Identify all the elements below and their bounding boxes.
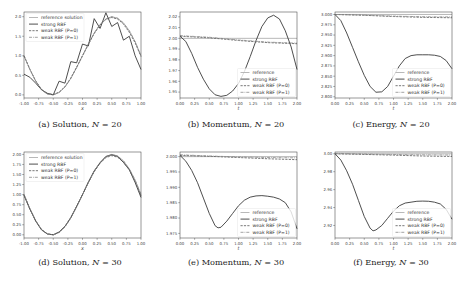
x-tick-label: 0.75 [375, 241, 384, 246]
legend-label: reference [408, 210, 430, 215]
caption-e: (e) Momentum, N = 30 [158, 257, 314, 267]
y-tick-label: 2.850 [321, 74, 333, 79]
legend-label: strong RBF [408, 77, 433, 82]
y-tick-label: 0.0 [15, 92, 22, 97]
legend-label: weak RBF (P=0) [253, 223, 290, 228]
x-axis-label: t [238, 245, 241, 251]
caption-d: (d) Solution, N = 30 [2, 257, 158, 267]
panel-f-energy-n30: 0.000.250.500.751.001.251.501.752.002.92… [313, 140, 469, 280]
panel-e-momentum-n30: 0.000.250.500.751.001.251.501.752.001.97… [158, 140, 314, 280]
caption-c-eq: = 20 [407, 119, 429, 129]
caption-a-eq: = 20 [99, 119, 121, 129]
x-axis-label: x [80, 105, 84, 111]
x-tick-label: 0.25 [190, 241, 199, 246]
legend-label: reference solution [41, 15, 83, 20]
chart-f: 0.000.250.500.751.001.251.501.752.002.92… [313, 140, 469, 260]
caption-a: (a) Solution, N = 20 [2, 119, 158, 129]
x-tick-label: 1.00 [137, 241, 146, 246]
legend: reference solutionstrong RBFweak RBF (P=… [26, 14, 84, 42]
caption-e-eq: = 30 [262, 257, 284, 267]
x-tick-label: 1.50 [263, 241, 272, 246]
legend-label: weak RBF (P=1) [41, 175, 78, 180]
x-tick-label: 0.25 [190, 101, 199, 106]
x-axis-label: t [393, 105, 396, 111]
x-tick-label: 0.50 [360, 101, 369, 106]
y-tick-label: 2.96 [324, 187, 333, 192]
y-tick-label: 2.94 [324, 205, 333, 210]
y-tick-label: 0.5 [15, 73, 22, 78]
y-tick-label: 1.0 [15, 53, 22, 58]
x-tick-label: -1.00 [19, 241, 30, 246]
x-tick-label: -0.50 [48, 101, 59, 106]
legend: referencestrong RBFweak RBF (P=0)weak RB… [238, 209, 296, 237]
panel-b-momentum-n20: 0.000.250.500.751.001.251.501.752.001.95… [158, 0, 314, 140]
y-tick-label: 1.75 [13, 162, 22, 167]
x-tick-label: 0.75 [122, 241, 131, 246]
x-tick-label: 2.00 [293, 101, 302, 106]
legend: referencestrong RBFweak RBF (P=0)weak RB… [393, 209, 451, 237]
y-tick-label: 3.000 [321, 12, 333, 17]
x-tick-label: -0.25 [63, 101, 74, 106]
legend-label: weak RBF (P=1) [41, 35, 78, 40]
x-tick-label: 0.50 [107, 101, 116, 106]
caption-b-eq: = 20 [262, 119, 284, 129]
x-tick-label: 0.50 [360, 241, 369, 246]
x-tick-label: 1.75 [278, 241, 287, 246]
chart-e: 0.000.250.500.751.001.251.501.752.001.97… [158, 140, 314, 260]
legend-label: weak RBF (P=0) [253, 83, 290, 88]
legend-label: reference [253, 210, 275, 215]
y-tick-label: 1.980 [166, 215, 178, 220]
y-tick-label: 0.25 [13, 222, 22, 227]
legend-label: reference solution [41, 155, 83, 160]
legend: referencestrong RBFweak RBF (P=0)weak RB… [238, 69, 296, 97]
y-tick-label: 1.97 [169, 68, 178, 73]
caption-f-eq: = 30 [406, 257, 428, 267]
x-tick-label: 0.25 [93, 241, 102, 246]
caption-b-var: N [255, 119, 262, 129]
x-tick-label: 2.00 [293, 241, 302, 246]
y-tick-label: 1.99 [169, 46, 178, 51]
x-tick-label: 1.25 [249, 101, 258, 106]
y-tick-label: 2.98 [324, 169, 333, 174]
x-tick-label: 0.50 [205, 241, 214, 246]
x-tick-label: -0.75 [34, 241, 45, 246]
x-tick-label: 0.00 [176, 101, 185, 106]
y-tick-label: 1.990 [166, 185, 178, 190]
y-tick-label: 2.900 [321, 53, 333, 58]
chart-a: -1.00-0.75-0.50-0.250.000.250.500.751.00… [2, 0, 158, 120]
legend-label: strong RBF [41, 22, 66, 27]
legend-label: weak RBF (P=1) [253, 230, 290, 235]
panel-a-solution-n20: -1.00-0.75-0.50-0.250.000.250.500.751.00… [2, 0, 158, 140]
legend-label: reference [408, 70, 430, 75]
caption-d-prefix: (d) Solution, [38, 257, 92, 267]
legend-label: weak RBF (P=1) [253, 90, 290, 95]
legend-label: weak RBF (P=0) [408, 223, 445, 228]
x-tick-label: 0.25 [93, 101, 102, 106]
legend-label: strong RBF [41, 162, 66, 167]
y-tick-label: 1.995 [166, 169, 178, 174]
panel-d-solution-n30: -1.00-0.75-0.50-0.250.000.250.500.751.00… [2, 140, 158, 280]
y-tick-label: 1.00 [13, 192, 22, 197]
y-tick-label: 1.5 [15, 34, 22, 39]
caption-e-prefix: (e) Momentum, [188, 257, 255, 267]
y-tick-label: 2.925 [321, 43, 333, 48]
x-tick-label: 1.50 [263, 101, 272, 106]
legend: referencestrong RBFweak RBF (P=0)weak RB… [393, 69, 451, 97]
y-tick-label: 2.875 [321, 63, 333, 68]
y-tick-label: 1.95 [169, 89, 178, 94]
y-tick-label: 2.950 [321, 32, 333, 37]
caption-e-var: N [254, 257, 261, 267]
legend-label: weak RBF (P=0) [41, 168, 78, 173]
x-tick-label: 1.75 [433, 101, 442, 106]
caption-f: (f) Energy, N = 30 [313, 257, 469, 267]
caption-c: (c) Energy, N = 20 [313, 119, 469, 129]
caption-c-prefix: (c) Energy, [352, 119, 400, 129]
x-tick-label: -0.75 [34, 101, 45, 106]
x-tick-label: -0.25 [63, 241, 74, 246]
y-tick-label: 0.75 [13, 202, 22, 207]
x-tick-label: 1.25 [404, 241, 413, 246]
x-tick-label: 2.00 [448, 101, 457, 106]
series-line-3 [180, 36, 297, 44]
x-tick-label: 1.50 [418, 241, 427, 246]
y-tick-label: 1.975 [166, 231, 178, 236]
